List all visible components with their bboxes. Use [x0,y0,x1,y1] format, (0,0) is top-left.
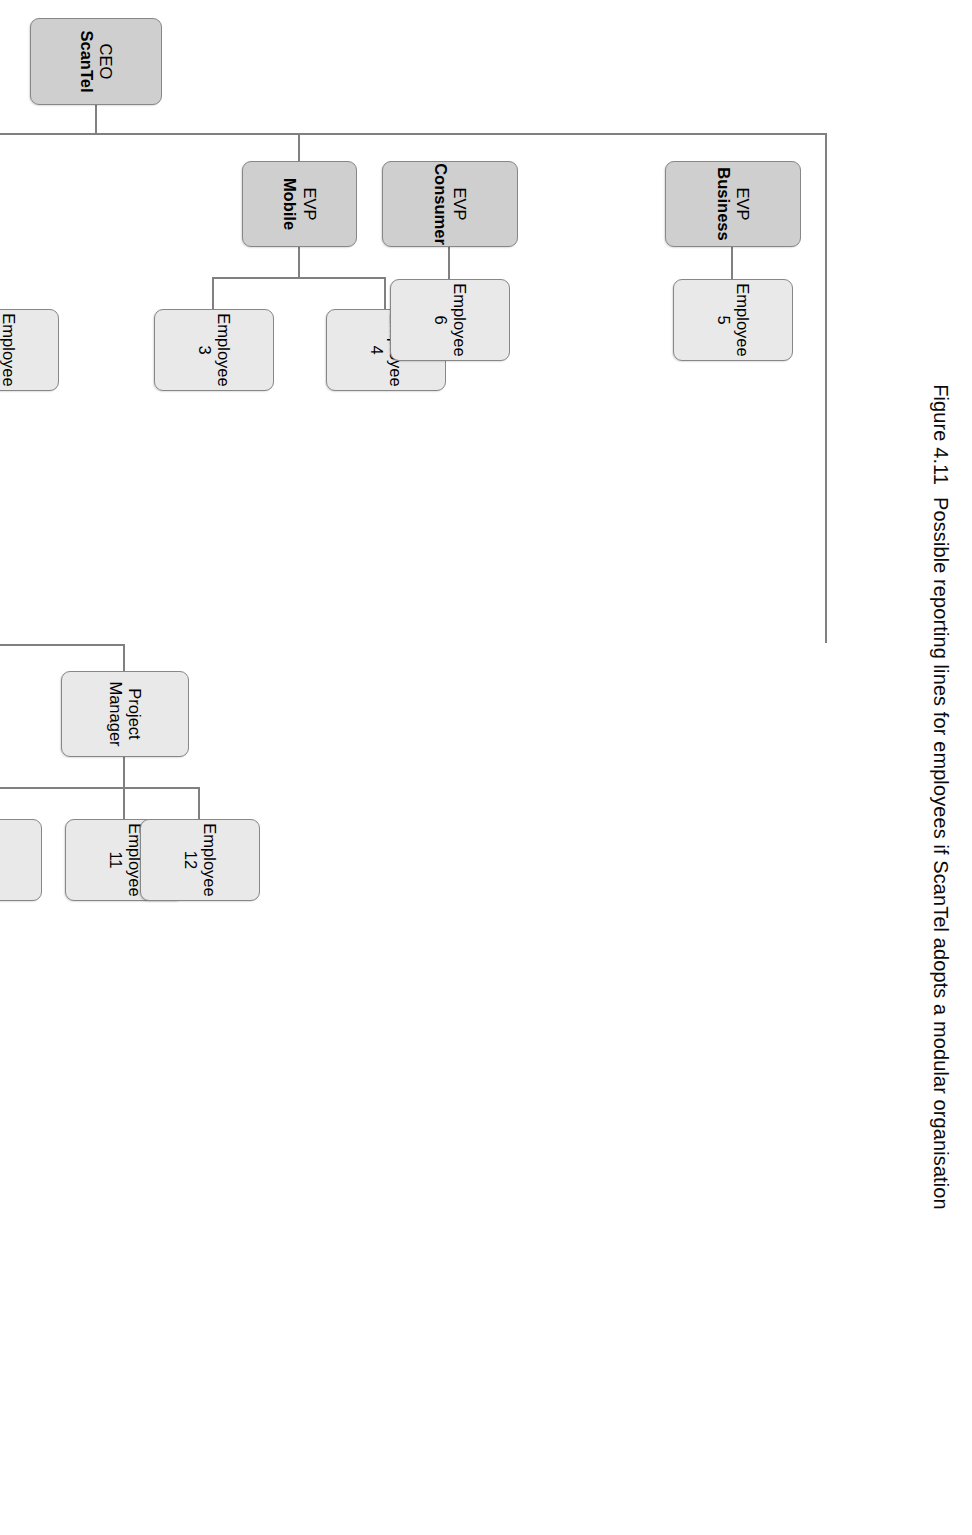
node-ceo-line2: ScanTel [77,30,96,92]
node-evp-mobile[interactable]: EVP Mobile [242,161,357,247]
node-evp-business-line1: EVP [733,187,752,220]
org-chart: CEO ScanTel EVP Fixed EVP Mobile EVP Bus… [0,0,860,1470]
node-pm-b-line1: Project [125,688,144,739]
edge-ceo-trunk [95,105,97,135]
edge-pm-bus [0,644,125,646]
edge-trunk-evp-consumer [825,133,827,643]
node-emp-3-line1: Employee [214,313,233,386]
node-emp-12-line1: Employee [200,823,219,896]
node-evp-business-line2: Business [714,167,733,240]
trunk-vertical [0,133,827,135]
edge-pm-b-bus [0,787,200,789]
org-chart-rotor: CEO ScanTel EVP Fixed EVP Mobile EVP Bus… [0,0,860,1470]
edge-mobile-bus [213,277,386,279]
figure-page: CEO ScanTel EVP Fixed EVP Mobile EVP Bus… [0,0,972,1535]
edge-mobile-emp4 [384,277,386,309]
node-emp-2[interactable]: Employee 2 [0,309,59,391]
edge-pm-b-emp11 [123,787,125,819]
node-ceo[interactable]: CEO ScanTel [30,18,162,105]
figure-caption: Figure 4.11 Possible reporting lines for… [910,62,972,1532]
node-evp-consumer-line2: Consumer [431,163,450,245]
node-project-manager-b[interactable]: Project Manager [61,671,189,757]
node-emp-12[interactable]: Employee 12 [140,819,260,901]
edge-bus-pm-b [123,644,125,671]
edge-trunk-evp-mobile [298,133,300,161]
node-emp-4-line2: 4 [367,345,386,354]
edge-evp-mobile-stub [298,247,300,279]
edge-pm-b-emp12 [198,787,200,819]
node-emp-10-line1: Employee [0,823,1,896]
node-evp-consumer-line1: EVP [450,187,469,220]
node-emp-5-line2: 5 [714,315,733,324]
node-emp-3-line2: 3 [195,345,214,354]
node-emp-3[interactable]: Employee 3 [154,309,274,391]
node-emp-5[interactable]: Employee 5 [673,279,793,361]
node-ceo-line1: CEO [96,44,115,80]
node-emp-6[interactable]: Employee 6 [390,279,510,361]
node-evp-business[interactable]: EVP Business [665,161,801,247]
node-emp-6-line2: 6 [431,315,450,324]
node-emp-6-line1: Employee [450,283,469,356]
node-evp-consumer[interactable]: EVP Consumer [382,161,518,247]
node-pm-b-line2: Manager [106,681,125,746]
figure-caption-text: Possible reporting lines for employees i… [930,497,953,1210]
node-emp-11-line2: 11 [106,851,125,868]
edge-evp-consumer-emp6 [448,247,450,279]
node-evp-mobile-line1: EVP [300,187,319,220]
node-emp-5-line1: Employee [733,283,752,356]
node-evp-mobile-line2: Mobile [280,178,299,230]
edge-evp-business-emp5 [731,247,733,279]
node-emp-2-line1: Employee [0,313,18,386]
node-emp-12-line2: 12 [181,851,200,869]
node-emp-10[interactable]: Employee 10 [0,819,42,901]
figure-number: Figure 4.11 [930,384,953,485]
edge-pm-b-stub [123,757,125,789]
edge-mobile-emp3 [212,277,214,309]
